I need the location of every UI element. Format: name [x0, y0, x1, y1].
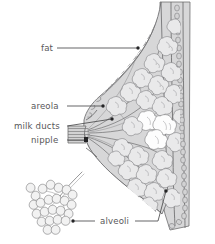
- label-areola: areola: [31, 101, 59, 111]
- label-fat: fat: [41, 43, 54, 53]
- leader-alveoli-left: [71, 219, 95, 222]
- diagram-canvas: fat areola milk ducts nipple alveoli: [0, 0, 215, 244]
- label-alveoli: alveoli: [100, 216, 129, 226]
- leader-fat: [57, 46, 140, 49]
- alveoli-sac-group: [26, 180, 77, 234]
- alveoli-inset: [26, 172, 84, 234]
- breast-anatomy-diagram: fat areola milk ducts nipple alveoli: [0, 0, 215, 244]
- label-milk-ducts: milk ducts: [14, 121, 60, 131]
- label-nipple: nipple: [31, 135, 58, 145]
